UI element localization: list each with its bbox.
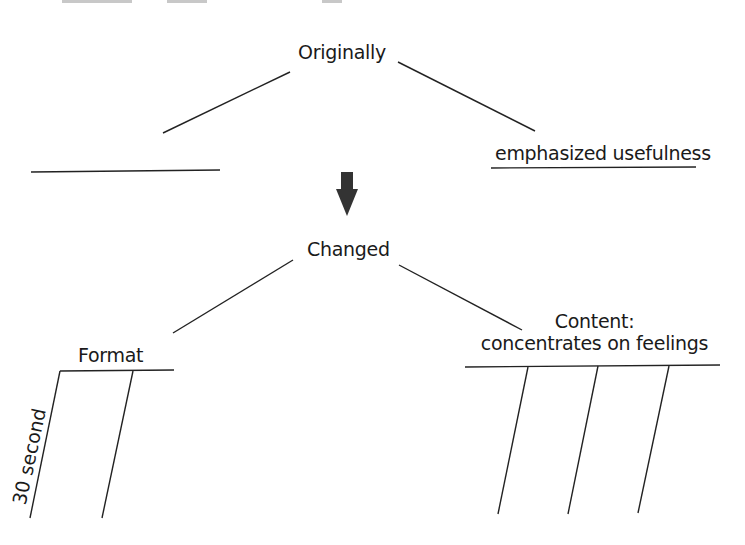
- content-label: Content: concentrates on feelings: [462, 310, 727, 354]
- emphasized-usefulness-label: emphasized usefulness: [495, 142, 711, 164]
- content-label-line1: Content:: [462, 310, 727, 332]
- content-subline-2: [568, 366, 598, 514]
- changed-left-connector: [173, 260, 293, 333]
- diagram-lines: [0, 0, 745, 545]
- content-label-line2: concentrates on feelings: [462, 332, 727, 354]
- changed-label: Changed: [307, 238, 390, 260]
- format-label: Format: [78, 344, 143, 366]
- content-subline-3: [638, 366, 669, 513]
- originally-right-connector: [398, 62, 535, 131]
- content-line: [465, 365, 720, 367]
- left-blank-line: [31, 170, 220, 172]
- originally-left-connector: [163, 72, 290, 133]
- format-line: [60, 370, 174, 371]
- content-subline-1: [498, 367, 528, 514]
- format-subline-2: [102, 371, 133, 518]
- emphasized-usefulness-underline: [491, 167, 696, 168]
- originally-label: Originally: [298, 41, 386, 63]
- down-arrow-icon: [336, 172, 358, 216]
